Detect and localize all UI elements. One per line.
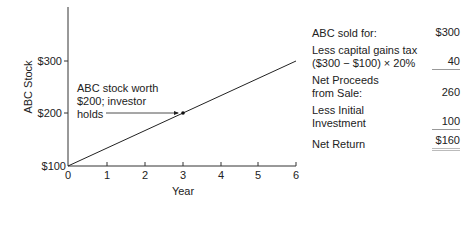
row-label: Net Proceeds from Sale: — [312, 74, 379, 100]
arrow-head-icon — [174, 111, 179, 115]
x-tick-label: 0 — [65, 169, 71, 181]
row-value: 40 — [432, 55, 460, 70]
row-label: Less capital gains tax ($300 − $100) × 2… — [312, 44, 417, 70]
x-tick-label: 1 — [104, 169, 110, 181]
table-row: ABC sold for: $300 — [312, 26, 460, 40]
table-row: Net Return $160 — [312, 134, 460, 151]
x-tick-label: 4 — [218, 169, 224, 181]
x-tick-label: 2 — [142, 169, 148, 181]
table-row: Less capital gains tax ($300 − $100) × 2… — [312, 44, 460, 70]
x-axis-label: Year — [172, 185, 195, 197]
row-value: $300 — [432, 26, 460, 40]
annotation-line3: holds — [77, 108, 104, 120]
table-row: Less Initial Investment 100 — [312, 104, 460, 130]
x-tick-label: 5 — [255, 169, 261, 181]
annotation-line1: ABC stock worth — [77, 82, 158, 94]
row-value: $160 — [432, 134, 460, 151]
row-value: 100 — [432, 115, 460, 130]
annotation-line2: $200; investor — [77, 95, 146, 107]
y-tick-label: $100 — [42, 160, 66, 172]
x-tick-label: 3 — [180, 169, 186, 181]
row-label: Less Initial Investment — [312, 104, 366, 130]
x-tick-label: 6 — [293, 169, 299, 181]
calculation-table: ABC sold for: $300 Less capital gains ta… — [312, 26, 460, 155]
row-label: Net Return — [312, 138, 365, 151]
data-point — [181, 111, 185, 115]
y-axis-label: ABC Stock — [22, 60, 34, 114]
y-tick-label: $300 — [38, 55, 62, 67]
row-value: 260 — [432, 86, 460, 100]
table-row: Net Proceeds from Sale: 260 — [312, 74, 460, 100]
row-label: ABC sold for: — [312, 27, 377, 40]
y-tick-label: $200 — [38, 107, 62, 119]
